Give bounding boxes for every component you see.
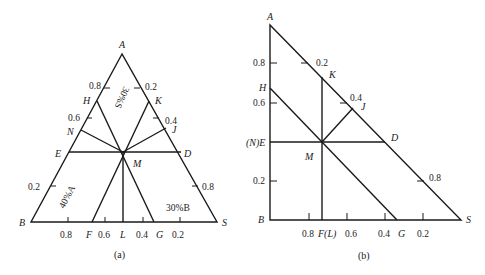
point-fl: F(L) (317, 228, 337, 240)
tick-label-bottom-0.4: 0.4 (136, 230, 148, 240)
point-h: H (82, 95, 91, 106)
point-g: G (398, 228, 405, 239)
ternary-diagrams: A B S H N E K J D M F L G 0.8 0.6 0.2 0.… (0, 0, 485, 275)
point-d: D (390, 132, 399, 143)
annotation-40-a: 40%A (57, 184, 77, 210)
tick-label-right-0.4: 0.4 (165, 116, 177, 126)
line-jm (123, 128, 166, 152)
diagram-a: A B S H N E K J D M F L G 0.8 0.6 0.2 0.… (19, 39, 227, 261)
tick-label-bottom-0.8: 0.8 (60, 230, 72, 240)
line-hg (97, 101, 154, 222)
point-d: D (183, 148, 192, 159)
point-f: F (85, 229, 93, 240)
caption-a: (a) (114, 249, 125, 261)
tick-label-bottom-0.2: 0.2 (417, 229, 429, 239)
tick-label-right-0.8: 0.8 (202, 182, 214, 192)
tick-label-hyp-0.2: 0.2 (316, 58, 328, 68)
tick-label-left-0.6: 0.6 (68, 113, 80, 123)
triangle-abs (270, 25, 461, 220)
point-l: L (119, 229, 126, 240)
vertex-a: A (118, 39, 126, 50)
point-k: K (328, 69, 337, 80)
vertex-b: B (258, 214, 264, 225)
point-m: M (304, 151, 314, 162)
line-hg (270, 88, 397, 220)
vertex-b: B (19, 217, 25, 228)
tick-label-bottom-0.2: 0.2 (172, 230, 184, 240)
point-h: H (258, 82, 267, 93)
point-k: K (154, 95, 163, 106)
tick-label-bottom-0.8: 0.8 (302, 229, 314, 239)
tick-label-hyp-0.8: 0.8 (429, 173, 441, 183)
tick-label-hyp-0.4: 0.4 (350, 93, 362, 103)
vertex-a: A (266, 11, 274, 22)
tick-label-bottom-0.6: 0.6 (98, 230, 110, 240)
annotation-30-b: 30%B (166, 203, 190, 213)
tick-label-left-0.8: 0.8 (89, 81, 101, 91)
point-g: G (156, 229, 163, 240)
point-m: M (132, 158, 142, 169)
diagram-b: A B S H (N)E K J D M F(L) G 0.8 0.6 0.2 … (246, 11, 471, 262)
point-n: N (66, 126, 75, 137)
tick-label-bottom-0.6: 0.6 (345, 229, 357, 239)
tick-label-left-0.2: 0.2 (28, 182, 40, 192)
tick-label-left-0.2: 0.2 (253, 176, 265, 186)
vertex-s: S (222, 217, 227, 228)
tick-label-left-0.6: 0.6 (253, 98, 265, 108)
vertex-s: S (466, 214, 471, 225)
tick-label-right-0.2: 0.2 (145, 82, 157, 92)
tick-label-left-0.8: 0.8 (253, 58, 265, 68)
caption-b: (b) (358, 250, 370, 262)
triangle-abs (31, 54, 217, 222)
annotation-30-s: 30%S (113, 85, 132, 110)
line-nm (81, 130, 123, 152)
tick-label-bottom-0.4: 0.4 (378, 229, 390, 239)
point-e: E (54, 148, 61, 159)
line-jm (322, 108, 353, 142)
point-ne: (N)E (246, 137, 265, 149)
